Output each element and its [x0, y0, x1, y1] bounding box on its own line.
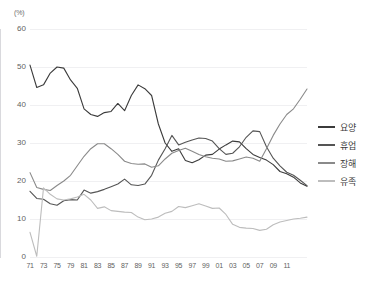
y-axis-tick-label: 20 [2, 177, 26, 185]
legend-item[interactable]: 유족 [318, 172, 373, 190]
y-axis-tick-label: 40 [2, 101, 26, 109]
y-axis-tick-label: 60 [2, 25, 26, 33]
x-axis-tick-label: 09 [270, 262, 277, 270]
x-axis-tick-label: 91 [148, 262, 155, 270]
chart-legend: 요양휴업장해유족 [318, 118, 373, 190]
y-axis-unit-label: (%) [14, 9, 24, 16]
series-lines [30, 29, 307, 257]
x-axis-tick-label: 81 [80, 262, 87, 270]
legend-line-icon [318, 144, 335, 146]
x-axis-labels: 7173757981838587899193959799010305070911 [30, 262, 307, 274]
x-axis-tick-label: 97 [189, 262, 196, 270]
y-axis-tick-label: 0 [2, 253, 26, 261]
x-axis-tick-label: 89 [135, 262, 142, 270]
x-axis-tick-label: 93 [162, 262, 169, 270]
y-axis-labels: 0102030405060 [0, 29, 26, 257]
series-line [30, 131, 307, 205]
x-axis-tick-label: 95 [175, 262, 182, 270]
legend-line-icon [318, 126, 335, 128]
legend-item[interactable]: 장해 [318, 154, 373, 172]
legend-item[interactable]: 요양 [318, 118, 373, 136]
x-axis-tick-label: 71 [26, 262, 33, 270]
x-axis-tick-label: 87 [121, 262, 128, 270]
chart-title [0, 0, 300, 4]
legend-item-label: 장해 [340, 157, 356, 170]
x-axis-tick-label: 05 [243, 262, 250, 270]
series-line [30, 188, 307, 256]
y-axis-line [0, 29, 1, 258]
series-line [30, 65, 307, 186]
legend-item-label: 요양 [340, 121, 356, 134]
x-axis-tick-label: 75 [53, 262, 60, 270]
plot-area [30, 29, 307, 257]
x-axis-tick-label: 99 [202, 262, 209, 270]
legend-item[interactable]: 휴업 [318, 136, 373, 154]
x-axis-tick-label: 03 [229, 262, 236, 270]
x-axis-tick-label: 01 [216, 262, 223, 270]
x-axis-tick-label: 07 [256, 262, 263, 270]
x-axis-tick-label: 73 [40, 262, 47, 270]
y-axis-tick-label: 10 [2, 215, 26, 223]
y-axis-tick-label: 50 [2, 63, 26, 71]
legend-item-label: 휴업 [340, 139, 356, 152]
series-line [30, 89, 307, 190]
gridline [30, 257, 307, 258]
x-axis-tick-label: 79 [67, 262, 74, 270]
chart-container: (%) 0102030405060 7173757981838587899193… [0, 0, 373, 283]
y-axis-tick-label: 30 [2, 139, 26, 147]
legend-line-icon [318, 162, 335, 164]
legend-line-icon [318, 180, 335, 182]
legend-item-label: 유족 [340, 175, 356, 188]
x-axis-tick-label: 83 [94, 262, 101, 270]
x-axis-tick-label: 11 [283, 262, 290, 270]
x-axis-tick-label: 85 [107, 262, 114, 270]
